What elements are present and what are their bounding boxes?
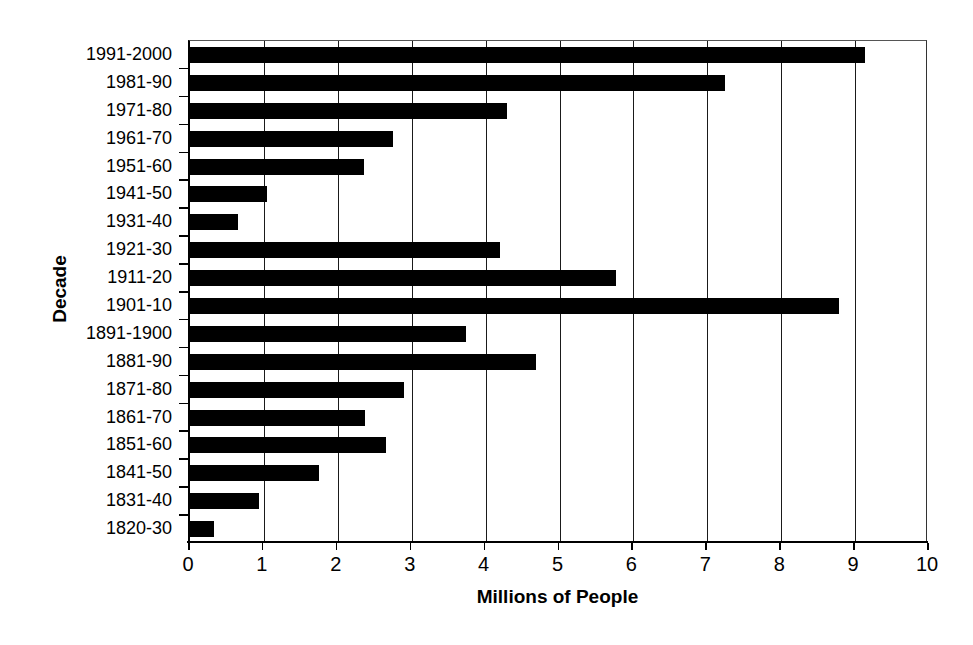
x-axis-tick-label: 7	[675, 553, 735, 576]
y-axis-tick-mark	[179, 207, 188, 209]
bar	[190, 47, 865, 63]
y-axis-tick-mark	[179, 152, 188, 154]
x-axis-tick-label: 9	[823, 553, 883, 576]
y-axis-tick-mark	[179, 179, 188, 181]
x-axis-tick-mark	[558, 543, 560, 550]
x-axis-tick-label: 3	[380, 553, 440, 576]
y-axis-tick-label: 1901-10	[106, 295, 172, 315]
x-axis-tick-mark	[188, 543, 190, 550]
x-axis-tick-label: 10	[897, 553, 957, 576]
bar	[190, 242, 500, 258]
x-axis-tick-label: 6	[601, 553, 661, 576]
gridline	[560, 41, 561, 543]
x-axis-tick-label: 8	[749, 553, 809, 576]
x-axis-tick-mark	[631, 543, 633, 550]
y-axis-tick-mark	[179, 458, 188, 460]
y-axis-tick-mark	[179, 124, 188, 126]
y-axis-tick-label: 1941-50	[106, 183, 172, 203]
bar	[190, 410, 365, 426]
x-axis-tick-label: 2	[306, 553, 366, 576]
y-axis-tick-mark	[179, 291, 188, 293]
gridline	[707, 41, 708, 543]
bar	[190, 354, 536, 370]
x-axis-tick-label: 0	[158, 553, 218, 576]
y-axis-tick-mark	[179, 319, 188, 321]
x-axis-tick-mark	[853, 543, 855, 550]
bar	[190, 186, 267, 202]
y-axis-tick-label: 1851-60	[106, 434, 172, 454]
y-axis-tick-mark	[179, 486, 188, 488]
y-axis-tick-label: 1981-90	[106, 72, 172, 92]
y-axis-tick-label: 1931-40	[106, 211, 172, 231]
x-axis-tick-mark	[336, 543, 338, 550]
y-axis-tick-mark	[179, 375, 188, 377]
y-axis-tick-label: 1820-30	[106, 518, 172, 538]
y-axis-tick-label: 1891-1900	[86, 323, 172, 343]
y-axis-tick-mark	[179, 235, 188, 237]
x-axis-tick-mark	[484, 543, 486, 550]
gridline	[781, 41, 782, 543]
y-axis-tick-label: 1911-20	[107, 267, 172, 287]
y-axis-tick-label: 1881-90	[106, 351, 172, 371]
x-axis-tick-label: 4	[454, 553, 514, 576]
x-axis-tick-mark	[410, 543, 412, 550]
x-axis-tick-label: 1	[232, 553, 292, 576]
y-axis-tick-mark	[179, 263, 188, 265]
y-axis-tick-label: 1971-80	[106, 100, 172, 120]
bar	[190, 131, 393, 147]
y-axis-tick-mark	[179, 514, 188, 516]
bar	[190, 159, 364, 175]
x-axis-tick-label: 5	[528, 553, 588, 576]
bar-chart: Decade 1991-20001981-901971-801961-70195…	[0, 0, 973, 645]
y-axis-tick-mark	[179, 430, 188, 432]
plot-area	[188, 40, 927, 542]
y-axis-tick-label: 1921-30	[106, 239, 172, 259]
bar	[190, 103, 507, 119]
y-axis-tick-label: 1991-2000	[86, 44, 172, 64]
bar	[190, 270, 616, 286]
x-axis-tick-mark	[779, 543, 781, 550]
bar	[190, 465, 319, 481]
x-axis-tick-mark	[705, 543, 707, 550]
gridline	[633, 41, 634, 543]
x-axis-tick-mark	[927, 543, 929, 550]
bar	[190, 521, 214, 537]
gridline	[855, 41, 856, 543]
y-axis-tick-label: 1861-70	[106, 407, 172, 427]
y-axis-tick-mark	[179, 347, 188, 349]
y-axis-tick-label: 1961-70	[106, 128, 172, 148]
bar	[190, 326, 466, 342]
y-axis-tick-mark	[179, 403, 188, 405]
bar	[190, 382, 404, 398]
y-axis-tick-labels: 1991-20001981-901971-801961-701951-60194…	[40, 40, 180, 542]
x-axis-title: Millions of People	[188, 586, 927, 608]
y-axis-tick-mark	[179, 68, 188, 70]
y-axis-tick-label: 1841-50	[106, 462, 172, 482]
bar	[190, 214, 238, 230]
bar	[190, 298, 839, 314]
y-axis-tick-mark	[179, 96, 188, 98]
bar	[190, 493, 259, 509]
bar	[190, 437, 386, 453]
bar	[190, 75, 725, 91]
y-axis-tick-label: 1871-80	[106, 379, 172, 399]
y-axis-tick-label: 1831-40	[106, 490, 172, 510]
y-axis-tick-label: 1951-60	[106, 156, 172, 176]
x-axis-tick-mark	[262, 543, 264, 550]
